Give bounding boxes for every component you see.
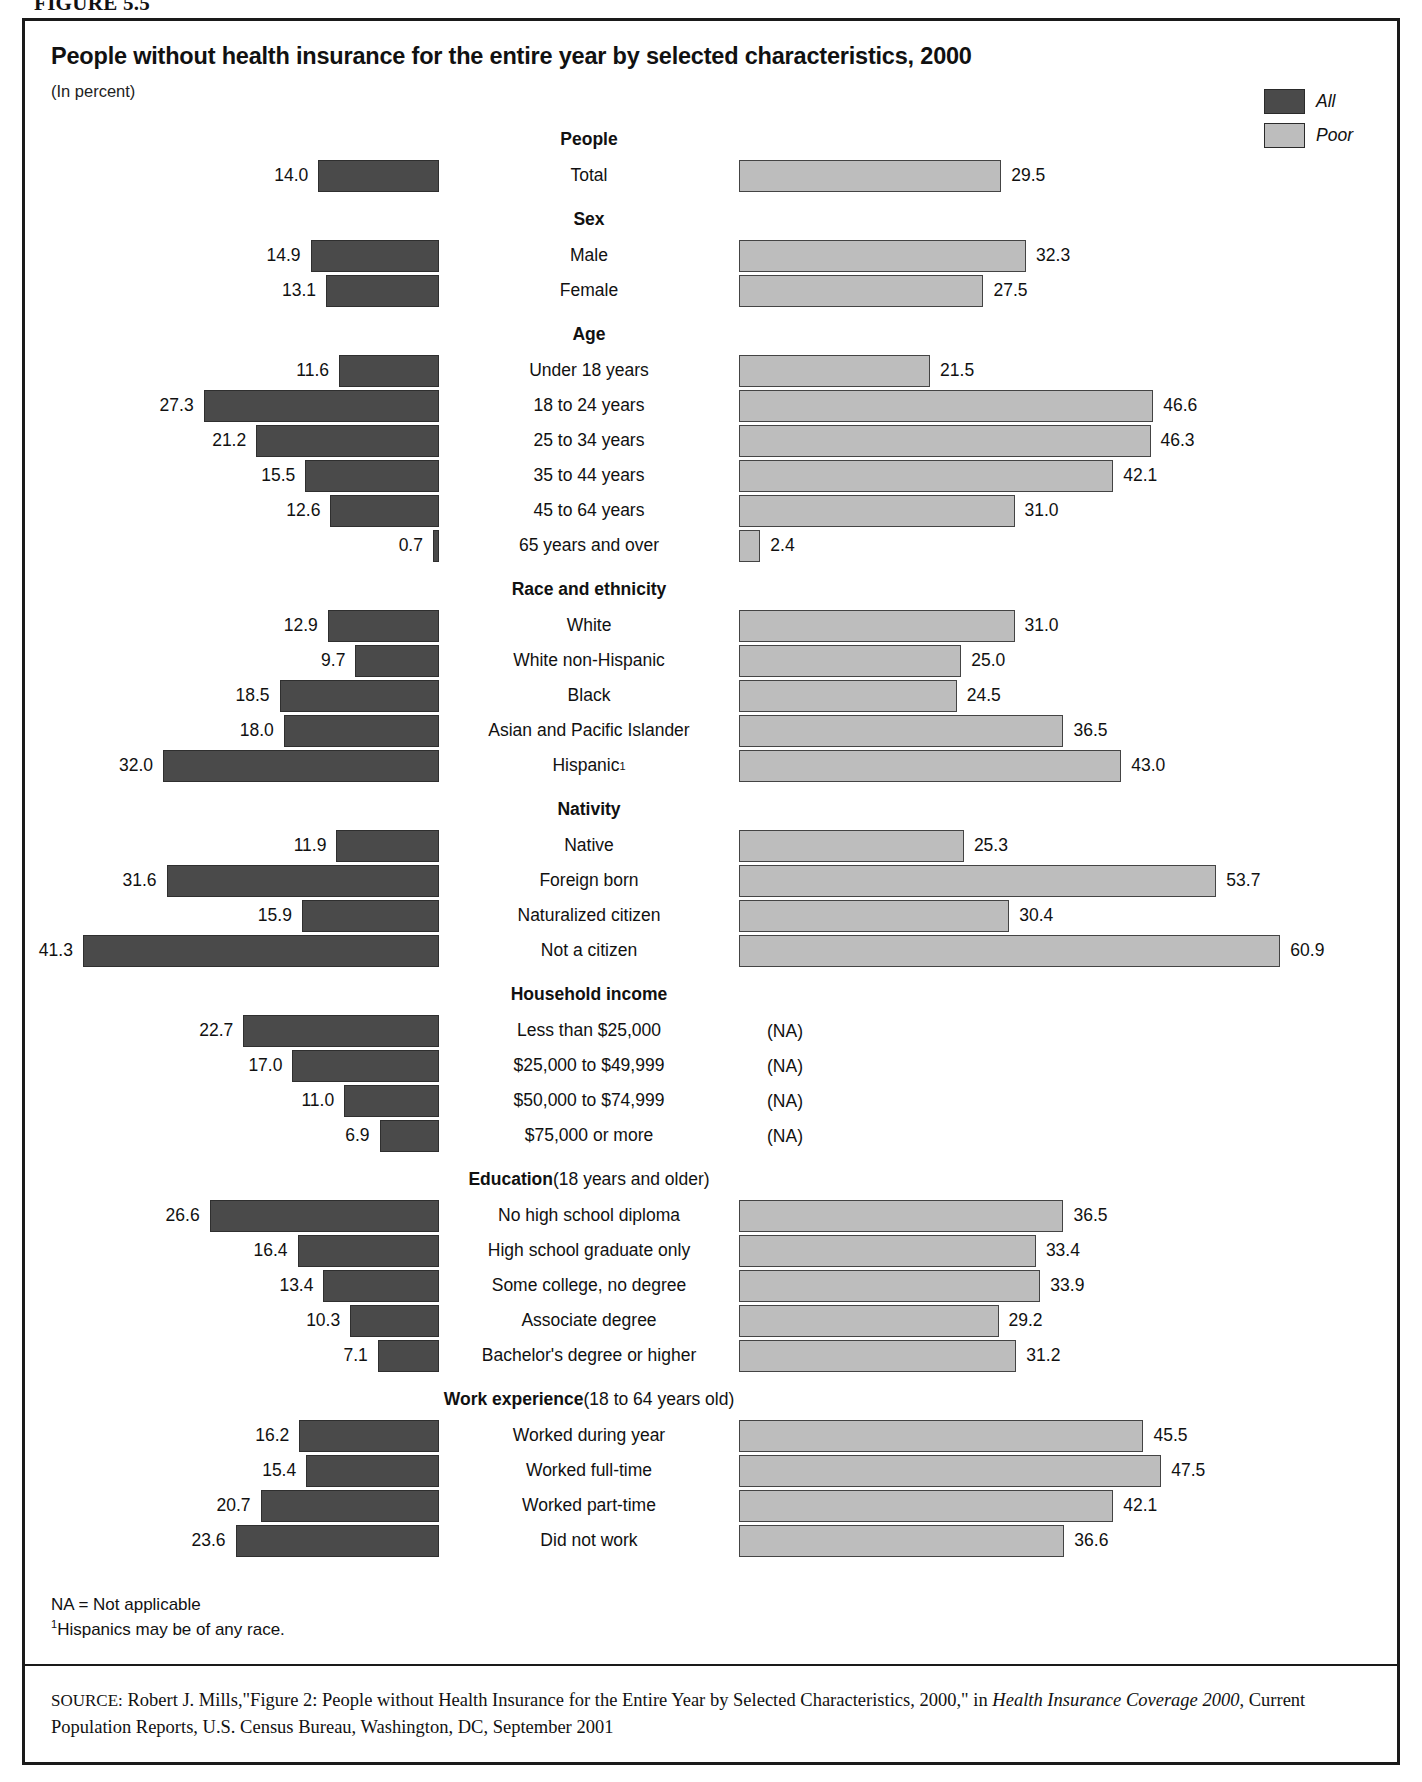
poor-bar	[739, 865, 1216, 897]
all-bar	[256, 425, 439, 457]
poor-value-label: 32.3	[1036, 245, 1070, 266]
figure-frame: People without health insurance for the …	[22, 18, 1400, 1765]
poor-value-label: 43.0	[1131, 755, 1165, 776]
chart-subtitle: (In percent)	[51, 82, 1371, 101]
category-label: 45 to 64 years	[439, 493, 739, 528]
left-bar-cell: 0.7	[51, 528, 439, 563]
chart-group-row: Household income	[51, 976, 1377, 1013]
left-bar-cell: 14.0	[51, 158, 439, 193]
all-value-label: 17.0	[248, 1055, 282, 1076]
all-bar-group: 20.7	[216, 1490, 439, 1522]
chart-data-row: 9.7White non-Hispanic25.0	[51, 643, 1377, 678]
poor-bar-cell	[739, 201, 1377, 238]
all-bar-group: 12.9	[284, 610, 439, 642]
poor-bar-cell: 36.5	[739, 713, 1377, 748]
chart-data-row: 13.1Female27.5	[51, 273, 1377, 308]
group-heading-qualifier: (18 years and older)	[553, 1169, 710, 1190]
left-bar-cell: 32.0	[51, 748, 439, 783]
poor-value-label: 45.5	[1153, 1425, 1187, 1446]
chart-group-row: Race and ethnicity	[51, 571, 1377, 608]
all-bar	[305, 460, 439, 492]
poor-value-label: 46.3	[1161, 430, 1195, 451]
poor-bar-group: 24.5	[739, 680, 1001, 712]
poor-value-label: 53.7	[1226, 870, 1260, 891]
all-value-label: 27.3	[160, 395, 194, 416]
chart-data-row: 15.4Worked full-time47.5	[51, 1453, 1377, 1488]
poor-value-label: 29.2	[1009, 1310, 1043, 1331]
all-bar	[236, 1525, 439, 1557]
all-bar	[83, 935, 439, 967]
all-bar	[306, 1455, 439, 1487]
poor-bar-cell: 31.0	[739, 493, 1377, 528]
all-value-label: 22.7	[199, 1020, 233, 1041]
poor-bar-cell	[739, 1161, 1377, 1198]
poor-bar-cell	[739, 791, 1377, 828]
left-bar-cell: 17.0	[51, 1048, 439, 1083]
all-bar	[292, 1050, 439, 1082]
poor-value-label: 31.2	[1026, 1345, 1060, 1366]
all-bar	[350, 1305, 439, 1337]
category-label: White	[439, 608, 739, 643]
chart-group-row: Nativity	[51, 791, 1377, 828]
chart-data-row: 22.7Less than $25,000(NA)	[51, 1013, 1377, 1048]
all-value-label: 7.1	[343, 1345, 367, 1366]
poor-value-label: 24.5	[967, 685, 1001, 706]
poor-bar	[739, 425, 1151, 457]
all-bar-group: 15.9	[258, 900, 439, 932]
all-bar	[284, 715, 439, 747]
poor-value-label: 2.4	[770, 535, 794, 556]
poor-bar-group: 29.2	[739, 1305, 1043, 1337]
category-label: Less than $25,000	[439, 1013, 739, 1048]
all-value-label: 26.6	[166, 1205, 200, 1226]
left-bar-cell: 15.5	[51, 458, 439, 493]
all-bar-group: 7.1	[343, 1340, 439, 1372]
category-label: 65 years and over	[439, 528, 739, 563]
poor-value-label: 31.0	[1025, 615, 1059, 636]
poor-bar-group: 60.9	[739, 935, 1324, 967]
all-value-label: 12.9	[284, 615, 318, 636]
left-bar-cell	[51, 201, 439, 238]
category-label: Some college, no degree	[439, 1268, 739, 1303]
source-italic-1: Health Insurance Coverage 2000	[992, 1690, 1239, 1710]
poor-bar-cell: (NA)	[739, 1013, 1377, 1048]
poor-value-label: 30.4	[1019, 905, 1053, 926]
poor-bar-cell: (NA)	[739, 1048, 1377, 1083]
figure-label: FIGURE 5.5	[34, 0, 150, 16]
all-value-label: 21.2	[212, 430, 246, 451]
chart-data-row: 18.0Asian and Pacific Islander36.5	[51, 713, 1377, 748]
source-prefix: SOURCE:	[51, 1691, 123, 1710]
left-bar-cell: 16.2	[51, 1418, 439, 1453]
chart-group-row: Work experience (18 to 64 years old)	[51, 1381, 1377, 1418]
left-bar-cell	[51, 976, 439, 1013]
left-bar-cell: 23.6	[51, 1523, 439, 1558]
all-bar-group: 11.6	[296, 355, 439, 387]
category-label: Under 18 years	[439, 353, 739, 388]
group-heading: People	[439, 121, 739, 158]
chart-data-row: 15.9Naturalized citizen30.4	[51, 898, 1377, 933]
poor-bar	[739, 935, 1280, 967]
category-label: Male	[439, 238, 739, 273]
all-bar	[328, 610, 439, 642]
all-bar	[167, 865, 439, 897]
chart-data-row: 32.0Hispanic143.0	[51, 748, 1377, 783]
poor-bar	[739, 610, 1015, 642]
all-value-label: 15.4	[262, 1460, 296, 1481]
footnote-text: Hispanics may be of any race.	[57, 1620, 285, 1639]
chart-data-row: 31.6Foreign born53.7	[51, 863, 1377, 898]
group-heading: Work experience (18 to 64 years old)	[439, 1381, 739, 1418]
all-bar-group: 12.6	[286, 495, 439, 527]
poor-bar-cell: 31.0	[739, 608, 1377, 643]
poor-value-label: 60.9	[1290, 940, 1324, 961]
all-value-label: 31.6	[122, 870, 156, 891]
chart-data-row: 17.0$25,000 to $49,999(NA)	[51, 1048, 1377, 1083]
all-bar	[311, 240, 439, 272]
category-label: High school graduate only	[439, 1233, 739, 1268]
not-applicable-label: (NA)	[767, 1090, 803, 1111]
poor-bar-group: 43.0	[739, 750, 1165, 782]
poor-bar-cell: 29.2	[739, 1303, 1377, 1338]
poor-bar	[739, 645, 961, 677]
chart-data-row: 21.225 to 34 years46.3	[51, 423, 1377, 458]
poor-value-label: 46.6	[1163, 395, 1197, 416]
group-heading: Sex	[439, 201, 739, 238]
poor-bar	[739, 1235, 1036, 1267]
